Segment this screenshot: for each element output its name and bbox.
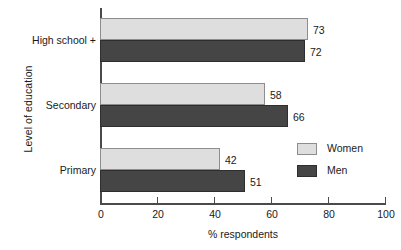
bar-women-secondary[interactable]: [100, 83, 265, 105]
bar-men-secondary[interactable]: [100, 105, 288, 127]
bar-women-high-school[interactable]: [100, 18, 308, 40]
bar-value-men-high-school: 72: [310, 47, 322, 58]
bar-men-high-school[interactable]: [100, 40, 305, 62]
x-tick-100: [385, 197, 386, 203]
x-tick-label-40: 40: [209, 208, 221, 220]
bar-value-women-secondary: 58: [270, 90, 282, 101]
x-tick-label-0: 0: [98, 208, 104, 220]
x-tick-label-60: 60: [266, 208, 278, 220]
bar-value-men-primary: 51: [250, 177, 262, 188]
x-axis-line: [100, 203, 386, 205]
category-label-column: High school + Secondary Primary: [0, 0, 96, 250]
bar-value-men-secondary: 66: [293, 112, 305, 123]
x-axis-title: % respondents: [100, 228, 386, 240]
category-label-high-school: High school +: [0, 35, 96, 46]
legend-label-women: Women: [327, 142, 363, 154]
legend-swatch-men-icon: [297, 165, 317, 177]
x-tick-label-80: 80: [323, 208, 335, 220]
bar-chart: Level of education High school + Seconda…: [0, 0, 401, 250]
x-tick-label-20: 20: [152, 208, 164, 220]
category-label-primary: Primary: [0, 165, 96, 176]
bar-men-primary[interactable]: [100, 170, 245, 192]
x-tick-label-100: 100: [377, 208, 395, 220]
bar-value-women-primary: 42: [225, 155, 237, 166]
bar-women-primary[interactable]: [100, 148, 220, 170]
legend-swatch-women-icon: [297, 143, 317, 155]
category-label-secondary: Secondary: [0, 100, 96, 111]
bar-value-women-high-school: 73: [313, 25, 325, 36]
legend-label-men: Men: [327, 164, 347, 176]
